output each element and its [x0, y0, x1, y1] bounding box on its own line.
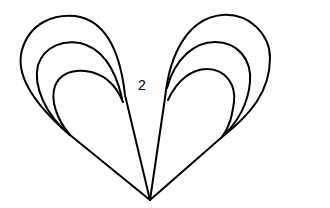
right-inner-loop [168, 69, 234, 137]
right-loops [150, 15, 270, 200]
left-outer-loop [21, 16, 150, 200]
diagram-label: 2 [138, 77, 146, 93]
left-inner-loop [53, 71, 123, 135]
left-loops [21, 16, 150, 200]
left-middle-loop [37, 42, 122, 135]
heart-loops-diagram: 2 [0, 0, 330, 208]
